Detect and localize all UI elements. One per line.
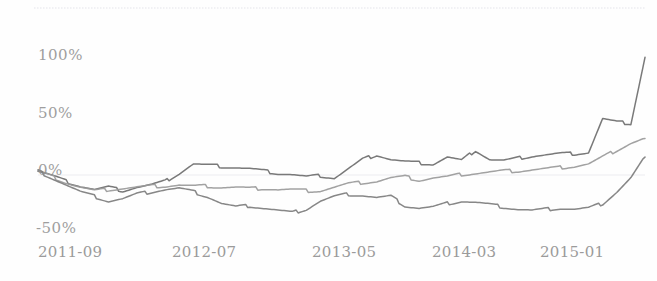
y-tick-label-50: 50% xyxy=(38,104,73,122)
series-group xyxy=(38,57,645,213)
series-line-1 xyxy=(38,57,645,192)
x-tick-label-2011-09: 2011-09 xyxy=(38,243,102,261)
y-tick-label-0: 0% xyxy=(38,161,63,179)
y-tick-label-minus-50: -50% xyxy=(36,219,76,237)
series-line-2 xyxy=(38,139,645,193)
x-tick-label-2013-05: 2013-05 xyxy=(312,243,376,261)
line-chart-plot xyxy=(0,0,657,281)
chart-container: 100% 50% 0% -50% 2011-09 2012-07 2013-05… xyxy=(0,0,657,281)
y-tick-label-100: 100% xyxy=(38,46,83,64)
x-tick-label-2015-01: 2015-01 xyxy=(540,243,604,261)
x-tick-label-2012-07: 2012-07 xyxy=(172,243,236,261)
x-tick-label-2014-03: 2014-03 xyxy=(432,243,496,261)
